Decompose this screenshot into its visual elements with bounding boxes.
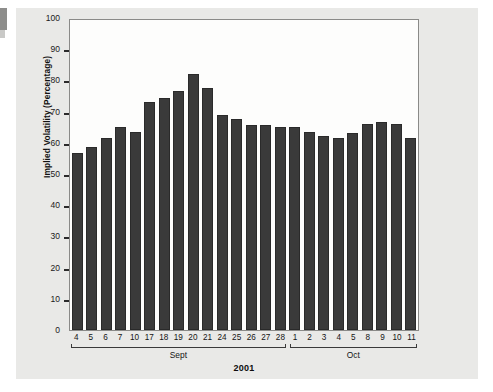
- x-axis-group-label: Oct: [290, 350, 418, 360]
- bar[interactable]: [115, 127, 126, 330]
- y-axis-tick: 90: [30, 50, 69, 51]
- y-axis-tick-label: 50: [51, 169, 60, 179]
- bar-slot[interactable]: [273, 20, 288, 330]
- x-axis-tick-label: 10: [390, 333, 405, 342]
- y-axis-tick: 40: [30, 206, 69, 207]
- y-axis-tick-label: 30: [51, 231, 60, 241]
- bar-slot[interactable]: [404, 20, 419, 330]
- bar[interactable]: [202, 88, 213, 330]
- bar[interactable]: [173, 91, 184, 330]
- bar-slot[interactable]: [99, 20, 114, 330]
- x-axis-group-rule: [71, 347, 286, 348]
- x-axis-tick-label: 24: [215, 333, 230, 342]
- x-axis-group-label: Sept: [71, 350, 286, 360]
- bar-slot[interactable]: [317, 20, 332, 330]
- bar[interactable]: [144, 102, 155, 330]
- bar-slot[interactable]: [389, 20, 404, 330]
- x-axis-tick-label: 5: [346, 333, 361, 342]
- x-axis-title: 2001: [69, 363, 419, 373]
- x-axis-tick-label: 18: [156, 333, 171, 342]
- y-axis-tick-label: 40: [51, 200, 60, 210]
- y-axis-tick-label: 20: [51, 263, 60, 273]
- x-tick-label-row: 4567101718192021242526272812345891011: [69, 333, 419, 342]
- x-axis-tick-label: 25: [229, 333, 244, 342]
- bar[interactable]: [362, 124, 373, 330]
- bar[interactable]: [188, 74, 199, 330]
- bar[interactable]: [405, 138, 416, 330]
- x-axis-tick-label: 20: [186, 333, 201, 342]
- bar-slot[interactable]: [259, 20, 274, 330]
- bar-slot[interactable]: [331, 20, 346, 330]
- bar-slot[interactable]: [244, 20, 259, 330]
- bar-slot[interactable]: [85, 20, 100, 330]
- x-axis-tick-label: 7: [113, 333, 128, 342]
- bar-slot[interactable]: [186, 20, 201, 330]
- y-axis-tick: 60: [30, 144, 69, 145]
- x-axis-tick-label: 5: [84, 333, 99, 342]
- bar[interactable]: [391, 124, 402, 330]
- y-axis-tick-label: 0: [55, 325, 60, 335]
- bar-slot[interactable]: [215, 20, 230, 330]
- y-axis-tick: 20: [30, 269, 69, 270]
- bar[interactable]: [217, 115, 228, 330]
- x-axis-group-rule: [290, 347, 418, 348]
- y-axis-tick-label: 10: [51, 294, 60, 304]
- bar[interactable]: [246, 125, 257, 330]
- x-axis-tick-label: 4: [69, 333, 84, 342]
- x-axis-tick-label: 28: [273, 333, 288, 342]
- bar-slot[interactable]: [172, 20, 187, 330]
- y-axis-tick: 30: [30, 237, 69, 238]
- plot-area: [69, 19, 419, 331]
- x-axis-tick-label: 21: [200, 333, 215, 342]
- y-axis-tick-label: 100: [46, 13, 60, 23]
- y-axis-tick-label: 60: [51, 138, 60, 148]
- bar-slot[interactable]: [288, 20, 303, 330]
- x-axis-tick-label: 4: [331, 333, 346, 342]
- bar[interactable]: [347, 133, 358, 330]
- bar-slot[interactable]: [143, 20, 158, 330]
- x-axis-tick-label: 3: [317, 333, 332, 342]
- y-axis-tick: 0: [30, 331, 69, 332]
- bar-slot[interactable]: [114, 20, 129, 330]
- y-axis-tick: 10: [30, 300, 69, 301]
- bar[interactable]: [231, 119, 242, 330]
- bar-slot[interactable]: [346, 20, 361, 330]
- bar[interactable]: [260, 125, 271, 330]
- bar-slot[interactable]: [375, 20, 390, 330]
- x-axis-tick-label: 6: [98, 333, 113, 342]
- scan-edge-artifact-secondary-icon: [0, 30, 5, 38]
- bar-slot[interactable]: [157, 20, 172, 330]
- bar[interactable]: [304, 132, 315, 330]
- bar-slot[interactable]: [230, 20, 245, 330]
- x-axis-tick-label: 17: [142, 333, 157, 342]
- x-axis-tick-label: 26: [244, 333, 259, 342]
- bar[interactable]: [86, 147, 97, 330]
- bar-slot[interactable]: [201, 20, 216, 330]
- bar-slot[interactable]: [302, 20, 317, 330]
- bar[interactable]: [318, 136, 329, 330]
- bar[interactable]: [275, 127, 286, 330]
- figure-root: Implied Volatility (Percentage) 10090807…: [0, 0, 493, 392]
- y-axis-tick: 50: [30, 175, 69, 176]
- y-axis-tick-label: 80: [51, 75, 60, 85]
- bar[interactable]: [72, 153, 83, 330]
- bar-slot[interactable]: [70, 20, 85, 330]
- bar[interactable]: [289, 127, 300, 330]
- x-axis-tick-label: 1: [288, 333, 303, 342]
- y-axis-tick-label: 90: [51, 44, 60, 54]
- bar[interactable]: [130, 132, 141, 330]
- bar-slot[interactable]: [128, 20, 143, 330]
- bar-series: [70, 20, 418, 330]
- y-axis-tick: 70: [30, 113, 69, 114]
- scan-edge-artifact-icon: [0, 8, 7, 30]
- x-axis-tick-label: 27: [259, 333, 274, 342]
- bar[interactable]: [101, 138, 112, 330]
- bar-slot[interactable]: [360, 20, 375, 330]
- bar[interactable]: [333, 138, 344, 330]
- bar[interactable]: [159, 98, 170, 331]
- y-axis-tick: 100: [30, 19, 69, 20]
- y-axis-tick: 80: [30, 81, 69, 82]
- x-axis-tick-label: 19: [171, 333, 186, 342]
- bar[interactable]: [376, 122, 387, 330]
- x-axis-tick-label: 11: [404, 333, 419, 342]
